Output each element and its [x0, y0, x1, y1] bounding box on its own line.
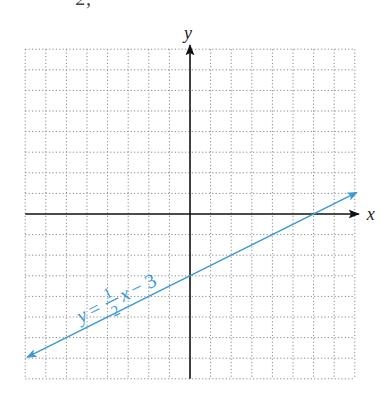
- line-y-equals-half-x-minus-3: [27, 192, 357, 357]
- y-axis-label: y: [182, 23, 192, 43]
- x-axis-label: x: [366, 204, 375, 224]
- eq-numerator: 1: [101, 284, 115, 302]
- axes: x y: [25, 23, 375, 379]
- equation-label: y = 1 2 x − 3: [69, 264, 164, 335]
- eq-constant: − 3: [126, 269, 159, 300]
- graph-figure: x y y = 1 2 x − 3: [0, 0, 382, 407]
